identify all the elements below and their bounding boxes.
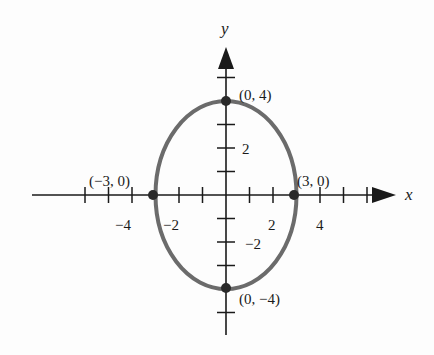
- x-tick-label-neg2: −2: [163, 217, 179, 233]
- point-left: [148, 190, 158, 200]
- point-label-left: (−3, 0): [89, 173, 130, 190]
- point-top: [221, 96, 231, 106]
- x-tick-label-neg4: −4: [115, 217, 131, 233]
- x-tick-label-2: 2: [268, 217, 276, 233]
- point-label-top: (0, 4): [239, 87, 272, 104]
- x-axis-arrow-icon: [372, 187, 396, 203]
- point-right: [289, 190, 299, 200]
- y-tick-label-2: 2: [242, 141, 250, 157]
- ellipse-diagram: x y −4 −2 2 4 2 −2: [0, 0, 434, 355]
- x-tick-label-4: 4: [316, 217, 324, 233]
- y-tick-labels: 2 −2: [242, 141, 261, 252]
- y-axis-label: y: [219, 19, 229, 38]
- x-axis-label: x: [404, 185, 413, 204]
- y-tick-label-neg2: −2: [245, 236, 261, 252]
- diagram-svg: x y −4 −2 2 4 2 −2: [0, 0, 434, 355]
- point-bottom: [221, 283, 231, 293]
- point-label-bottom: (0, −4): [239, 291, 280, 308]
- point-label-right: (3, 0): [297, 173, 330, 190]
- y-axis-arrow-icon: [218, 47, 234, 69]
